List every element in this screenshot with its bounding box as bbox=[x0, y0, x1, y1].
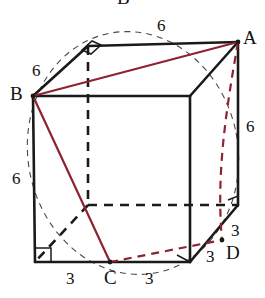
dimension-label-bottom-right-3: 3 bbox=[145, 270, 154, 287]
vertex-label-A: A bbox=[243, 28, 257, 47]
dimension-label-bottom-left-3: 3 bbox=[66, 270, 75, 287]
right-angle-mark-bottom-front-right bbox=[177, 250, 190, 262]
highlight-edge-B-to-C bbox=[33, 96, 110, 262]
vertex-dot-B bbox=[31, 94, 36, 99]
vertex-dot-D bbox=[220, 238, 225, 243]
hidden-edge-center-to-front-left bbox=[35, 205, 88, 262]
right-angle-mark-top-back-left bbox=[82, 41, 101, 54]
dimension-label-lower-right-3b: 3 bbox=[231, 222, 240, 239]
edge-vertical-front-left bbox=[33, 96, 35, 262]
vertex-dot-C bbox=[108, 260, 113, 265]
solid-edges-group bbox=[33, 42, 238, 262]
dimension-label-left-6: 6 bbox=[12, 170, 21, 187]
dimension-label-right-6: 6 bbox=[246, 118, 255, 135]
edge-top-back bbox=[88, 42, 238, 46]
vertex-dot-A bbox=[236, 40, 241, 45]
clipped-top-glyph: B bbox=[117, 0, 130, 7]
hidden-edges-group bbox=[35, 46, 238, 262]
geometry-figure: B A B C D 6 6 6 6 3 3 3 3 bbox=[0, 0, 265, 298]
vertex-label-C: C bbox=[104, 268, 117, 287]
dimension-label-upper-left-6: 6 bbox=[32, 62, 41, 79]
dimension-label-lower-right-3a: 3 bbox=[206, 248, 215, 265]
dimension-label-top-6: 6 bbox=[157, 17, 166, 34]
vertex-label-B: B bbox=[10, 84, 23, 103]
vertex-label-D: D bbox=[226, 243, 240, 262]
